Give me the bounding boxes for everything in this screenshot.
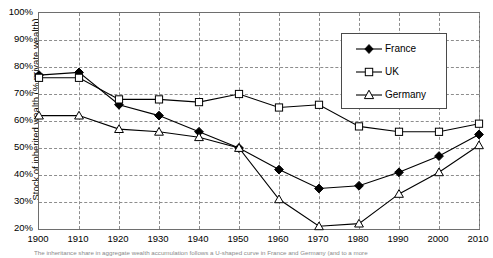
y-axis-tick-label: 20%: [3, 223, 33, 232]
data-point: [395, 128, 402, 135]
data-point: [475, 141, 484, 149]
y-axis-tick-label: 30%: [3, 196, 33, 205]
data-point: [195, 99, 202, 106]
legend-label-france: France: [385, 43, 416, 54]
data-point: [435, 152, 444, 161]
uk-marker-icon: [354, 61, 384, 83]
data-point: [355, 181, 364, 190]
france-marker-icon: [354, 38, 384, 60]
legend-entry-france: France: [342, 38, 448, 60]
data-point: [395, 190, 404, 198]
x-axis-tick-label: 1950: [218, 233, 258, 244]
data-point: [355, 123, 362, 130]
x-axis-tick-label: 1980: [338, 233, 378, 244]
data-point: [315, 184, 324, 193]
data-point: [355, 219, 364, 227]
data-point: [315, 101, 322, 108]
legend-label-uk: UK: [385, 66, 399, 77]
y-axis-tick-label: 70%: [3, 88, 33, 97]
data-point: [275, 104, 282, 111]
legend-entry-germany: Germany: [342, 84, 448, 106]
data-point: [155, 111, 164, 120]
x-axis-tick-label: 1910: [58, 233, 98, 244]
y-axis-tick-label: 80%: [3, 61, 33, 70]
data-point: [435, 128, 442, 135]
chart-legend: France UK Germany: [341, 33, 447, 109]
data-point: [155, 96, 162, 103]
data-point: [75, 74, 82, 81]
x-axis-tick-label: 1970: [298, 233, 338, 244]
x-axis-tick-label: 2010: [458, 233, 493, 244]
legend-entry-uk: UK: [342, 61, 448, 83]
data-point: [435, 168, 444, 176]
x-axis-tick-label: 1920: [98, 233, 138, 244]
y-axis-tick-label: 90%: [3, 34, 33, 43]
y-axis-tick-labels: 20%30%40%50%60%70%80%90%100%: [0, 0, 33, 258]
data-point: [235, 90, 242, 97]
x-axis-tick-label: 1990: [378, 233, 418, 244]
x-axis-tick-label: 1960: [258, 233, 298, 244]
y-axis-tick-label: 50%: [3, 142, 33, 151]
x-axis-tick-labels: 1900191019201930194019501960197019801990…: [0, 233, 486, 247]
figure-caption: The inheritance share in aggregate wealt…: [34, 249, 486, 256]
data-point: [395, 168, 404, 177]
y-axis-tick-label: 40%: [3, 169, 33, 178]
data-point: [115, 96, 122, 103]
legend-label-germany: Germany: [385, 89, 426, 100]
plot-area: France UK Germany: [38, 12, 480, 230]
data-point: [475, 120, 482, 127]
data-point: [475, 130, 484, 139]
y-axis-tick-label: 60%: [3, 115, 33, 124]
data-point: [115, 125, 124, 133]
x-axis-tick-label: 1930: [138, 233, 178, 244]
y-axis-tick-label: 100%: [3, 7, 33, 16]
x-axis-tick-label: 1940: [178, 233, 218, 244]
germany-marker-icon: [354, 84, 384, 106]
data-point: [275, 165, 284, 174]
data-point: [35, 74, 42, 81]
x-axis-tick-label: 1900: [18, 233, 58, 244]
series-germany: [35, 111, 484, 229]
x-axis-tick-label: 2000: [418, 233, 458, 244]
